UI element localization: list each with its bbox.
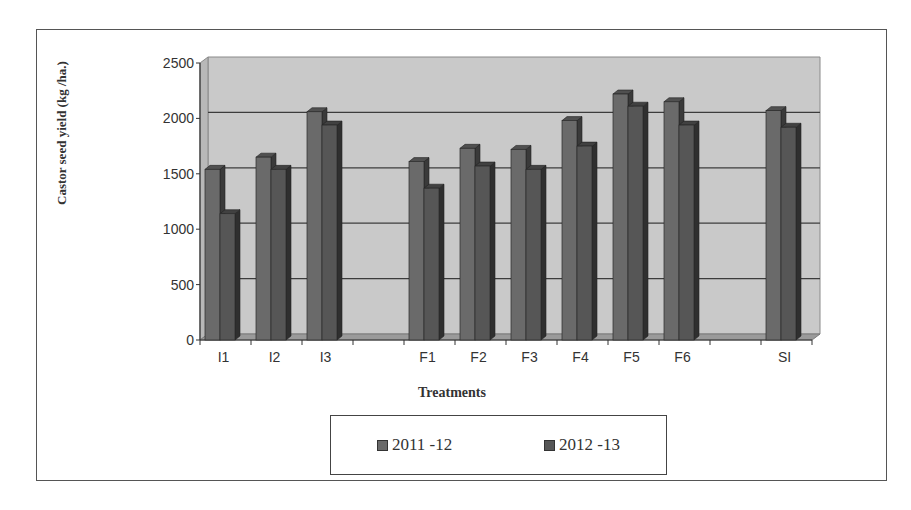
x-axis-title: Treatments bbox=[418, 385, 486, 401]
y-tick-label: 1500 bbox=[163, 166, 194, 182]
bar-2012-13 bbox=[322, 125, 337, 340]
bar-2012-13 bbox=[424, 188, 439, 340]
bar-2012-13 bbox=[628, 106, 643, 340]
bar-2011-12 bbox=[562, 121, 577, 340]
bar-side bbox=[439, 184, 444, 340]
bar-2011-12 bbox=[613, 94, 628, 340]
x-tick-label: F1 bbox=[419, 349, 436, 365]
legend-label: 2011 -12 bbox=[392, 435, 452, 455]
bar-side bbox=[541, 165, 546, 340]
y-tick-label: 2500 bbox=[163, 55, 194, 71]
legend-swatch-icon bbox=[544, 440, 555, 451]
bar-2012-13 bbox=[781, 127, 796, 340]
bar-2012-13 bbox=[679, 125, 694, 340]
bar-2011-12 bbox=[205, 169, 220, 340]
x-tick-label: I2 bbox=[269, 349, 281, 365]
floor bbox=[200, 334, 820, 340]
x-tick-label: SI bbox=[778, 349, 791, 365]
x-tick-label: F4 bbox=[572, 349, 589, 365]
bar-2012-13 bbox=[271, 169, 286, 340]
bar-2011-12 bbox=[409, 162, 424, 340]
x-tick-label: F5 bbox=[623, 349, 640, 365]
bar-side bbox=[490, 162, 495, 340]
y-axis-title: Castor seed yield (kg /ha.) bbox=[54, 61, 70, 205]
y-tick-label: 500 bbox=[171, 277, 195, 293]
bar-side bbox=[286, 165, 291, 340]
x-tick-label: F2 bbox=[470, 349, 487, 365]
y-tick-label: 1000 bbox=[163, 221, 194, 237]
legend-item-series-2: 2012 -13 bbox=[544, 435, 620, 455]
bar-2012-13 bbox=[577, 146, 592, 340]
legend-item-series-1: 2011 -12 bbox=[377, 435, 452, 455]
bar-2011-12 bbox=[766, 111, 781, 340]
plot-area: 05001000150020002500I1I2I3F1F2F3F4F5F6SI bbox=[163, 55, 820, 365]
x-tick-label: I1 bbox=[218, 349, 230, 365]
legend-swatch-icon bbox=[377, 440, 388, 451]
x-tick-label: F3 bbox=[521, 349, 538, 365]
y-tick-label: 0 bbox=[186, 332, 194, 348]
bar-side bbox=[643, 102, 648, 340]
bar-2011-12 bbox=[664, 102, 679, 340]
bar-2012-13 bbox=[526, 169, 541, 340]
bar-2011-12 bbox=[460, 148, 475, 340]
x-tick-label: F6 bbox=[674, 349, 691, 365]
bar-side bbox=[592, 142, 597, 340]
legend: 2011 -12 2012 -13 bbox=[330, 415, 667, 475]
bar-side bbox=[337, 121, 342, 340]
bar-2011-12 bbox=[256, 157, 271, 340]
bar-2012-13 bbox=[220, 214, 235, 340]
bar-side bbox=[235, 210, 240, 340]
bar-side bbox=[796, 123, 801, 340]
y-tick-label: 2000 bbox=[163, 110, 194, 126]
bar-2011-12 bbox=[511, 149, 526, 340]
legend-label: 2012 -13 bbox=[559, 435, 620, 455]
bar-2012-13 bbox=[475, 166, 490, 340]
bar-2011-12 bbox=[307, 112, 322, 340]
x-tick-label: I3 bbox=[320, 349, 332, 365]
bar-side bbox=[694, 121, 699, 340]
